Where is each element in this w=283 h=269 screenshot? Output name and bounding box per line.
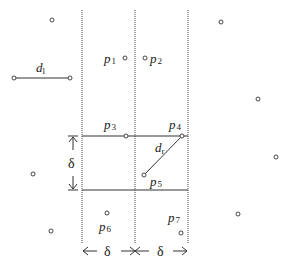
label-p4: p4 — [168, 117, 182, 132]
point — [31, 172, 35, 176]
vertical-delta-dimension: δ — [68, 136, 78, 190]
point-p3 — [124, 134, 128, 138]
point — [68, 76, 72, 80]
svg-text:δ: δ — [157, 244, 164, 259]
point — [256, 97, 260, 101]
point — [236, 212, 240, 216]
point-p5 — [142, 173, 146, 177]
svg-text:δ: δ — [68, 156, 75, 171]
d-left-label: dl — [36, 60, 46, 76]
label-p5: p5 — [149, 174, 163, 189]
point — [12, 76, 16, 80]
label-p6: p6 — [98, 219, 112, 234]
point-p6 — [105, 211, 109, 215]
point-p7 — [179, 231, 183, 235]
point — [274, 155, 278, 159]
point — [49, 229, 53, 233]
point-p4 — [180, 134, 184, 138]
point — [50, 18, 54, 22]
horizontal-delta-dimension: δ δ — [83, 244, 187, 259]
label-p2: p2 — [149, 51, 162, 66]
point-p1 — [123, 56, 127, 60]
closest-pair-diagram: dl dr p1 p2 p3 p4 p5 p6 p7 δ δ δ — [0, 0, 283, 269]
label-p3: p3 — [103, 117, 117, 132]
label-p7: p7 — [167, 210, 181, 225]
d-right-label: dr — [155, 140, 165, 156]
svg-text:δ: δ — [104, 244, 111, 259]
point — [219, 20, 223, 24]
label-p1: p1 — [103, 51, 116, 66]
point-p2 — [143, 56, 147, 60]
